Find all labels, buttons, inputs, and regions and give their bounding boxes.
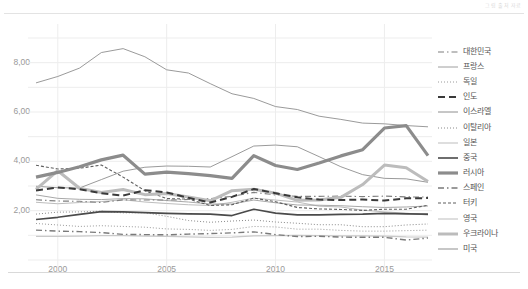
legend-swatch-japan bbox=[438, 138, 458, 148]
legend-item-germany[interactable]: 독일 bbox=[438, 74, 528, 89]
legend-item-italy[interactable]: 이탈리아 bbox=[438, 120, 528, 135]
series-line-usa bbox=[36, 145, 428, 188]
legend-item-france[interactable]: 프랑스 bbox=[438, 59, 528, 74]
legend-swatch-israel bbox=[438, 107, 458, 117]
legend-swatch-ukraine bbox=[438, 229, 458, 239]
legend-item-russia[interactable]: 러시아 bbox=[438, 166, 528, 181]
legend-item-china[interactable]: 중국 bbox=[438, 150, 528, 165]
legend-item-japan[interactable]: 일본 bbox=[438, 135, 528, 150]
legend-item-spain[interactable]: 스페인 bbox=[438, 181, 528, 196]
legend-swatch-uk bbox=[438, 214, 458, 224]
legend-label: 인도 bbox=[463, 93, 477, 101]
chart-canvas bbox=[0, 16, 440, 275]
legend-label: 이탈리아 bbox=[463, 124, 491, 132]
legend-swatch-korea bbox=[438, 47, 458, 57]
legend-item-uk[interactable]: 영국 bbox=[438, 211, 528, 226]
legend-swatch-italy bbox=[438, 123, 458, 133]
legend-label: 스페인 bbox=[463, 184, 484, 192]
legend-item-israel[interactable]: 이스라엘 bbox=[438, 105, 528, 120]
series-line-germany bbox=[36, 223, 428, 231]
header-divider bbox=[4, 13, 524, 14]
legend-swatch-france bbox=[438, 62, 458, 72]
legend-swatch-turkey bbox=[438, 198, 458, 208]
header-strip: 그림 출처 자료 bbox=[0, 0, 528, 16]
header-note: 그림 출처 자료 bbox=[485, 1, 522, 8]
series-line-russia bbox=[36, 126, 428, 179]
series-line-ukraine bbox=[36, 165, 428, 201]
legend-label: 대한민국 bbox=[463, 48, 491, 56]
legend-item-turkey[interactable]: 터키 bbox=[438, 196, 528, 211]
chart-legend: 대한민국프랑스독일인도이스라엘이탈리아일본중국러시아스페인터키영국우크라이나미국 bbox=[438, 44, 528, 257]
chart-screenshot: 그림 출처 자료 8,006,004,002,00 20002005201020… bbox=[0, 0, 528, 289]
legend-label: 이스라엘 bbox=[463, 108, 491, 116]
legend-swatch-spain bbox=[438, 183, 458, 193]
legend-label: 일본 bbox=[463, 139, 477, 147]
legend-swatch-russia bbox=[438, 168, 458, 178]
legend-label: 영국 bbox=[463, 215, 477, 223]
legend-item-india[interactable]: 인도 bbox=[438, 90, 528, 105]
x-axis-rule bbox=[8, 272, 520, 273]
plot-area: 8,006,004,002,00 2000200520102015 bbox=[0, 16, 440, 275]
legend-label: 독일 bbox=[463, 78, 477, 86]
legend-item-usa[interactable]: 미국 bbox=[438, 241, 528, 256]
legend-swatch-india bbox=[438, 92, 458, 102]
legend-item-korea[interactable]: 대한민국 bbox=[438, 44, 528, 59]
legend-label: 터키 bbox=[463, 199, 477, 207]
legend-swatch-china bbox=[438, 153, 458, 163]
legend-label: 프랑스 bbox=[463, 63, 484, 71]
legend-item-ukraine[interactable]: 우크라이나 bbox=[438, 226, 528, 241]
legend-label: 러시아 bbox=[463, 169, 484, 177]
legend-swatch-germany bbox=[438, 77, 458, 87]
legend-swatch-usa bbox=[438, 244, 458, 254]
legend-label: 중국 bbox=[463, 154, 477, 162]
legend-label: 미국 bbox=[463, 245, 477, 253]
legend-label: 우크라이나 bbox=[463, 230, 498, 238]
